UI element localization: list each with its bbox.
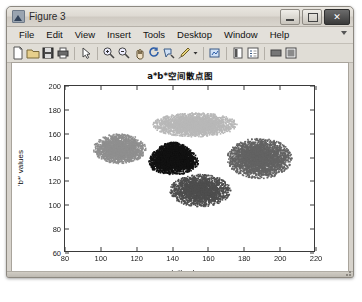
- y-tick-mark: [65, 181, 69, 182]
- x-tick-mark: [316, 86, 317, 90]
- figure-window: Figure 3 ✕ File Edit View Insert Tools D…: [6, 6, 354, 278]
- title-bar[interactable]: Figure 3 ✕: [7, 7, 353, 27]
- x-tick-mark: [172, 247, 173, 251]
- menu-item-desktop[interactable]: Desktop: [171, 28, 218, 42]
- plot-axes[interactable]: 6080100120140160180200 80100120140160180…: [64, 85, 315, 252]
- x-tick-mark: [244, 247, 245, 251]
- menu-item-insert[interactable]: Insert: [101, 28, 137, 42]
- insert-colorbar-icon[interactable]: [231, 46, 245, 60]
- status-bar: [7, 271, 353, 277]
- hide-plot-tools-icon[interactable]: [269, 46, 283, 60]
- maximize-button[interactable]: [302, 9, 322, 25]
- window-controls: ✕: [280, 9, 350, 25]
- minimize-glyph: [286, 19, 294, 21]
- x-tick-mark: [280, 247, 281, 251]
- y-tick-label: 60: [53, 249, 61, 258]
- x-tick-label: 180: [238, 254, 251, 263]
- menu-item-edit[interactable]: Edit: [40, 28, 68, 42]
- y-tick-label: 80: [53, 225, 61, 234]
- pan-icon[interactable]: [132, 46, 146, 60]
- y-tick-mark: [65, 133, 69, 134]
- menu-item-tools[interactable]: Tools: [137, 28, 171, 42]
- y-tick-mark: [65, 229, 69, 230]
- y-tick-mark: [310, 229, 314, 230]
- x-tick-label: 100: [95, 254, 108, 263]
- y-tick-mark: [310, 133, 314, 134]
- x-tick-mark: [136, 247, 137, 251]
- x-tick-mark: [100, 247, 101, 251]
- x-tick-label: 160: [202, 254, 215, 263]
- x-tick-mark: [172, 86, 173, 90]
- menu-item-file[interactable]: File: [13, 28, 40, 42]
- y-tick-label: 200: [48, 82, 61, 91]
- y-tick-mark: [310, 109, 314, 110]
- close-icon: ✕: [333, 13, 341, 21]
- link-data-icon[interactable]: [208, 46, 222, 60]
- figure-canvas[interactable]: a*b*空间散点图 'b*' values 608010012014016018…: [11, 62, 349, 274]
- menu-item-window[interactable]: Window: [218, 28, 264, 42]
- y-tick-mark: [310, 157, 314, 158]
- y-tick-label: 160: [48, 129, 61, 138]
- minimize-button[interactable]: [280, 9, 300, 25]
- y-axis-label: 'b*' values: [16, 150, 25, 186]
- x-tick-label: 140: [166, 254, 179, 263]
- print-figure-icon[interactable]: [56, 46, 70, 60]
- menu-item-help[interactable]: Help: [264, 28, 296, 42]
- close-button[interactable]: ✕: [324, 9, 350, 25]
- x-tick-mark: [65, 247, 66, 251]
- toolbar-separator: [74, 47, 75, 60]
- maximize-glyph: [308, 13, 318, 22]
- x-tick-mark: [208, 86, 209, 90]
- title-bar-left: Figure 3: [12, 10, 66, 23]
- x-tick-mark: [208, 247, 209, 251]
- y-tick-mark: [65, 109, 69, 110]
- x-tick-mark: [136, 86, 137, 90]
- menu-item-view[interactable]: View: [69, 28, 101, 42]
- x-tick-label: 120: [130, 254, 143, 263]
- x-tick-mark: [65, 86, 66, 90]
- plot-title: a*b*空间散点图: [12, 69, 348, 81]
- rotate-3d-icon[interactable]: [147, 46, 161, 60]
- y-tick-label: 120: [48, 177, 61, 186]
- y-tick-mark: [310, 86, 314, 87]
- menu-bar: File Edit View Insert Tools Desktop Wind…: [7, 27, 353, 44]
- x-tick-label: 200: [274, 254, 287, 263]
- show-plot-tools-icon[interactable]: [284, 46, 298, 60]
- y-tick-mark: [310, 205, 314, 206]
- x-tick-mark: [244, 86, 245, 90]
- x-tick-label: 220: [310, 254, 323, 263]
- brush-icon[interactable]: [177, 46, 191, 60]
- insert-legend-icon[interactable]: [246, 46, 260, 60]
- y-tick-mark: [65, 205, 69, 206]
- chevron-down-icon[interactable]: [341, 31, 347, 35]
- window-title: Figure 3: [29, 11, 66, 22]
- save-figure-icon[interactable]: [41, 46, 55, 60]
- data-cursor-icon[interactable]: [162, 46, 176, 60]
- pointer-icon[interactable]: [79, 46, 93, 60]
- matlab-figure-icon: [12, 10, 25, 23]
- y-tick-label: 140: [48, 153, 61, 162]
- y-tick-mark: [65, 86, 69, 87]
- zoom-out-icon[interactable]: [117, 46, 131, 60]
- x-tick-label: 80: [61, 254, 69, 263]
- resize-grip[interactable]: [343, 268, 351, 276]
- new-figure-icon[interactable]: [11, 46, 25, 60]
- y-tick-mark: [65, 157, 69, 158]
- open-file-icon[interactable]: [26, 46, 40, 60]
- x-tick-mark: [100, 86, 101, 90]
- x-tick-mark: [280, 86, 281, 90]
- tool-bar: [7, 44, 353, 63]
- toolbar-separator: [97, 47, 98, 60]
- toolbar-separator: [203, 47, 204, 60]
- y-tick-label: 180: [48, 105, 61, 114]
- toolbar-separator: [226, 47, 227, 60]
- toolbar-separator: [264, 47, 265, 60]
- x-tick-mark: [316, 247, 317, 251]
- y-tick-label: 100: [48, 201, 61, 210]
- scatter-plot-canvas: [65, 86, 316, 253]
- zoom-in-icon[interactable]: [102, 46, 116, 60]
- y-tick-mark: [310, 181, 314, 182]
- brush-dropdown-icon[interactable]: [192, 46, 199, 60]
